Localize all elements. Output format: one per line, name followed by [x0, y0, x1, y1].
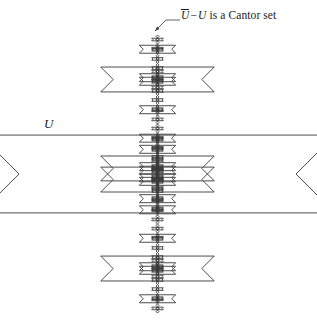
region-label-u: U	[44, 116, 53, 132]
fractal-svg	[0, 0, 317, 334]
minus-operator: −	[189, 9, 198, 21]
recursive-diamond-outline	[0, 35, 317, 313]
cantor-predicate-text: is a Cantor set	[209, 9, 276, 21]
cantor-set-annotation: U−U is a Cantor set	[181, 9, 276, 22]
leader-line	[155, 20, 180, 31]
cantor-diamond-figure	[0, 0, 317, 334]
open-set-symbol: U	[198, 9, 206, 21]
